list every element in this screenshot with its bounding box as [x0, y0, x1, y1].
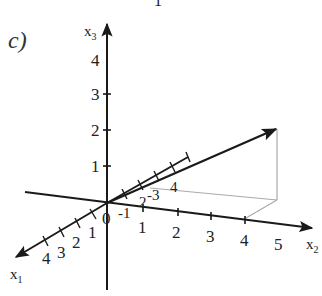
projection-lines [150, 129, 277, 218]
x2-axis-label: x2 [306, 236, 319, 255]
x3-axis [103, 24, 111, 290]
x1-axis [16, 152, 190, 257]
x1-neg-label-2: 2 [139, 194, 147, 210]
x1-tick-label-1: 1 [88, 223, 97, 242]
x1-tick-label-3: 3 [57, 243, 66, 262]
x2-tick-label-4: 4 [240, 231, 249, 250]
part-label: c) [8, 27, 27, 53]
x2-tick-label-3: 3 [206, 227, 215, 246]
x3-tick-label-4: 4 [91, 51, 100, 70]
top-cut-glyph: 1 [154, 0, 162, 9]
x2-tick-label-1: 1 [138, 218, 147, 237]
x3-tick-label-2: 2 [91, 121, 100, 140]
x1-tick-label-2: 2 [72, 233, 81, 252]
x3-axis-label: x3 [84, 23, 97, 42]
x2-axis [25, 192, 312, 228]
origin-label: 0 [102, 209, 111, 228]
x1-tick-label-4: 4 [42, 249, 51, 268]
x3-tick-label-3: 3 [91, 85, 100, 104]
x3-tick-label-1: 1 [91, 157, 100, 176]
x1-axis-label: x1 [10, 266, 23, 285]
x1-neg-label-4: 4 [170, 179, 178, 195]
x1-neg-label-3: -3 [147, 187, 160, 203]
x2-tick-label-2: 2 [172, 223, 181, 242]
coordinate-diagram: 1 c) 1 2 3 4 x3 1 2 3 4 5 x2 [0, 0, 322, 296]
x2-tick-label-5: 5 [274, 235, 283, 254]
x1-neg-label-1: -1 [118, 205, 131, 221]
